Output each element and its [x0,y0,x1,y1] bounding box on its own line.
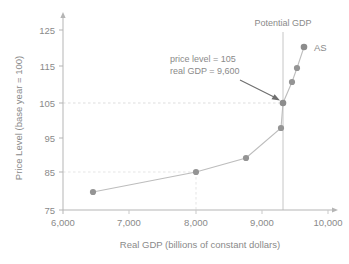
data-point-9775-115 [294,65,300,71]
data-point-9600-105 [280,100,287,107]
y-tick-label-75: 75 [44,205,55,216]
callout-line-1: price level = 105 [170,54,236,64]
callout-arrow-head-icon [272,94,281,100]
y-axis-arrow-icon [60,12,65,18]
y-tick-label-95: 95 [44,133,55,144]
data-point-9275-99 [278,125,284,131]
data-point-9700-111 [289,79,295,85]
series-label-as: AS [314,42,327,53]
data-point-6500-80 [90,189,96,195]
data-point-8000-85 [193,169,199,175]
y-axis-ticks [59,30,63,210]
x-tick-label-8000: 8,000 [184,217,208,228]
data-point-9875-120 [301,44,308,51]
aggregate-supply-chart: 125 115 105 95 85 75 6,000 7,000 8,000 9… [0,0,349,264]
x-tick-label-9000: 9,000 [250,217,274,228]
x-axis-arrow-icon [332,207,338,212]
y-tick-label-125: 125 [39,25,55,36]
y-axis-title: Price Level (base year = 100) [13,56,24,180]
callout-line-2: real GDP = 9,600 [170,66,240,76]
potential-gdp-label: Potential GDP [254,18,311,28]
chart-figure: 125 115 105 95 85 75 6,000 7,000 8,000 9… [0,0,349,264]
y-tick-label-85: 85 [44,167,55,178]
x-tick-label-6000: 6,000 [51,217,75,228]
y-tick-label-105: 105 [39,98,55,109]
data-point-8750-89 [243,155,249,161]
callout-arrow-shaft [240,80,276,98]
x-tick-label-10000: 10,000 [313,217,342,228]
y-tick-label-115: 115 [40,61,55,72]
x-axis-title: Real GDP (billions of constant dollars) [120,239,280,250]
x-axis-ticks [63,210,328,214]
x-tick-label-7000: 7,000 [117,217,141,228]
